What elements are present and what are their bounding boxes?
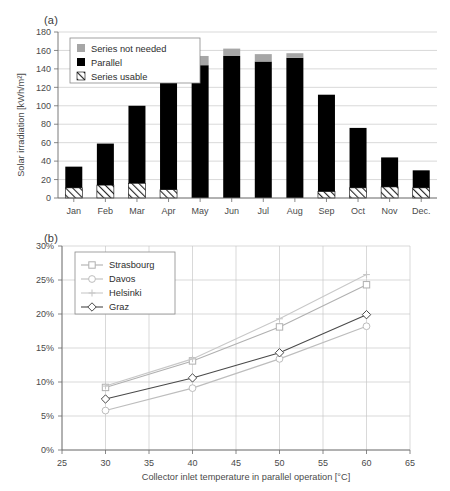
- bar-segment-series-not-needed: [255, 54, 272, 61]
- y-tick-label: 10%: [36, 377, 54, 387]
- y-tick-label: 0: [46, 193, 51, 203]
- y-tick-label: 180: [36, 27, 51, 37]
- x-tick-label: Jun: [224, 206, 239, 216]
- bar-segment-parallel: [97, 144, 114, 186]
- x-tick-label: Jan: [67, 206, 82, 216]
- y-tick-label: 40: [41, 156, 51, 166]
- bar-segment-series-usable: [413, 188, 430, 198]
- data-point-davos: [363, 323, 370, 330]
- bar-segment-parallel: [128, 106, 145, 183]
- legend-label-parallel: Parallel: [91, 58, 122, 68]
- bar-segment-parallel: [223, 56, 240, 198]
- x-tick-label: 45: [231, 458, 241, 468]
- bar-segment-series-not-needed: [286, 53, 303, 58]
- bar-segment-parallel: [160, 80, 177, 190]
- bar-segment-parallel: [350, 128, 367, 188]
- x-tick-label: Mar: [129, 206, 145, 216]
- bar-segment-parallel: [192, 65, 209, 198]
- data-point-davos: [189, 385, 196, 392]
- legend-label-series-not-needed: Series not needed: [91, 44, 166, 54]
- line-chart-indirect-use: 0%5%10%15%20%25%30% 253035404550556065 P…: [0, 228, 450, 488]
- x-tick-label: Nov: [382, 206, 399, 216]
- x-tick-label: Jul: [258, 206, 270, 216]
- y-tick-label: 25%: [36, 275, 54, 285]
- x-tick-label: 50: [274, 458, 284, 468]
- y-tick-label: 120: [36, 83, 51, 93]
- data-point-graz: [362, 310, 370, 318]
- legend-marker-strasbourg: [89, 262, 95, 268]
- y-tick-label: 160: [36, 46, 51, 56]
- y-tick-label: 20: [41, 175, 51, 185]
- data-point-graz: [101, 395, 109, 403]
- bar-segment-series-usable: [318, 192, 335, 198]
- x-tick-label: 65: [405, 458, 415, 468]
- y-tick-label: 30%: [36, 241, 54, 251]
- bar-segment-series-usable: [160, 190, 177, 198]
- x-tick-label: Dec.: [412, 206, 431, 216]
- chart-a-legend: Series not neededParallelSeries usable: [70, 38, 200, 83]
- data-point-graz: [188, 374, 196, 382]
- bar-segment-series-usable: [128, 183, 145, 198]
- bar-segment-series-usable: [381, 187, 398, 198]
- legend-label-series-usable: Series usable: [91, 72, 147, 82]
- bar-segment-series-usable: [97, 185, 114, 198]
- chart-a-y-axis-title: Solar irradiation [kWh/m²]: [16, 73, 26, 177]
- x-tick-label: 55: [318, 458, 328, 468]
- legend-label-davos: Davos: [109, 274, 136, 284]
- data-point-davos: [102, 407, 109, 414]
- x-tick-label: 30: [100, 458, 110, 468]
- x-tick-label: 25: [57, 458, 67, 468]
- legend-label-strasbourg: Strasbourg: [109, 260, 154, 270]
- x-tick-label: Feb: [98, 206, 114, 216]
- legend-label-helsinki: Helsinki: [109, 288, 142, 298]
- y-tick-label: 60: [41, 138, 51, 148]
- y-tick-label: 140: [36, 64, 51, 74]
- bar-segment-series-usable: [350, 188, 367, 198]
- x-tick-label: 40: [187, 458, 197, 468]
- bar-segment-parallel: [65, 167, 82, 188]
- data-point-strasbourg: [363, 282, 369, 288]
- x-tick-label: 60: [361, 458, 371, 468]
- bar-segment-parallel: [286, 58, 303, 198]
- y-tick-label: 5%: [41, 411, 54, 421]
- x-tick-label: Oct: [351, 206, 366, 216]
- legend-swatch-series-not-needed: [77, 44, 85, 52]
- x-tick-label: May: [192, 206, 210, 216]
- bar-segment-parallel: [318, 95, 335, 192]
- bar-segment-series-usable: [65, 188, 82, 198]
- legend-swatch-parallel: [77, 58, 85, 66]
- figure-container: (a) (b) 020406080100120140160180 JanFebM…: [0, 0, 450, 491]
- legend-marker-davos: [89, 276, 96, 283]
- bar-segment-series-not-needed: [223, 49, 240, 56]
- x-tick-label: Aug: [287, 206, 303, 216]
- data-point-strasbourg: [276, 324, 282, 330]
- chart-a-y-tick-labels: 020406080100120140160180: [36, 27, 58, 203]
- y-tick-label: 80: [41, 119, 51, 129]
- data-point-helsinki: [276, 315, 283, 322]
- bar-chart-solar-irradiation: 020406080100120140160180 JanFebMarAprMay…: [0, 10, 450, 235]
- bar-segment-parallel: [255, 62, 272, 198]
- chart-b-x-axis-title: Collector inlet temperature in parallel …: [142, 472, 350, 482]
- y-tick-label: 20%: [36, 309, 54, 319]
- x-tick-label: Apr: [162, 206, 176, 216]
- legend-swatch-series-usable: [77, 72, 85, 80]
- y-tick-label: 15%: [36, 343, 54, 353]
- chart-b-y-tick-labels: 0%5%10%15%20%25%30%: [36, 241, 62, 455]
- y-tick-label: 100: [36, 101, 51, 111]
- legend-label-graz: Graz: [109, 302, 129, 312]
- chart-b-x-tick-labels: 253035404550556065: [57, 450, 415, 468]
- x-tick-label: 35: [144, 458, 154, 468]
- y-tick-label: 0%: [41, 445, 54, 455]
- x-tick-label: Sep: [318, 206, 334, 216]
- data-point-helsinki: [363, 271, 370, 278]
- bar-segment-parallel: [413, 170, 430, 188]
- bar-segment-parallel: [381, 157, 398, 187]
- data-point-graz: [275, 349, 283, 357]
- chart-b-legend: StrasbourgDavosHelsinkiGraz: [75, 252, 175, 314]
- chart-a-x-tick-labels: JanFebMarAprMayJunJulAugSepOctNovDec.: [67, 198, 431, 216]
